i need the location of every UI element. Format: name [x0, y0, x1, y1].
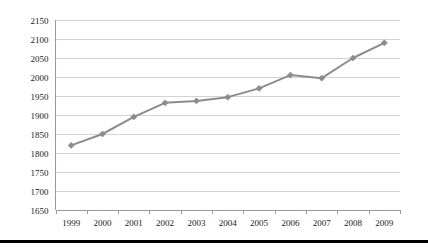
y-axis-tick-label: 1650: [31, 206, 50, 216]
data-point-marker: [381, 40, 387, 46]
y-axis-tick-label: 1700: [31, 187, 50, 197]
y-axis-tick-label: 2000: [31, 73, 50, 83]
x-axis-tick-label: 2002: [156, 218, 174, 228]
x-axis-tick-label: 1999: [62, 218, 81, 228]
data-point-marker: [162, 100, 168, 106]
line-chart-plot: 2150210020502000195019001850180017501700…: [0, 0, 428, 249]
x-axis-tick-label: 2004: [219, 218, 238, 228]
gridlines: [56, 21, 401, 211]
y-axis-tick-label: 1800: [31, 149, 50, 159]
bottom-horizontal-rule: [0, 240, 428, 243]
x-axis-tick-label: 2009: [375, 218, 394, 228]
x-axis-tick-label: 2001: [125, 218, 143, 228]
y-axis-tick-label: 2050: [31, 54, 50, 64]
y-axis-tick-label: 1750: [31, 168, 50, 178]
y-axis-tick-labels: 2150210020502000195019001850180017501700…: [31, 16, 50, 216]
data-point-marker: [193, 98, 199, 104]
x-axis-tick-label: 2000: [93, 218, 112, 228]
x-axis-tick-label: 2008: [344, 218, 363, 228]
y-axis-tick-label: 1950: [31, 92, 50, 102]
data-point-marker: [225, 94, 231, 100]
x-axis-tick-label: 2003: [187, 218, 206, 228]
data-point-markers: [68, 40, 387, 149]
x-axis-tick-label: 2005: [250, 218, 269, 228]
x-axis-tick-label: 2006: [281, 218, 300, 228]
chart-figure: 2150210020502000195019001850180017501700…: [0, 0, 428, 249]
y-axis-tick-label: 2100: [31, 35, 50, 45]
data-point-marker: [68, 142, 74, 148]
data-point-marker: [256, 85, 262, 91]
y-axis-tick-label: 2150: [31, 16, 50, 26]
y-axis-tick-label: 1900: [31, 111, 50, 121]
x-axis-tick-labels: 1999200020012002200320042005200620072008…: [62, 218, 394, 228]
x-axis-tick-label: 2007: [313, 218, 332, 228]
y-axis-tick-label: 1850: [31, 130, 50, 140]
